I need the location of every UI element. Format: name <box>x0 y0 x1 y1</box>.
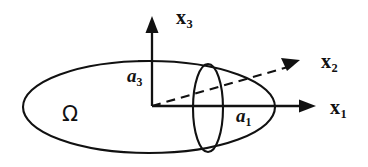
x3-axis-arrowhead <box>146 16 159 33</box>
x1-axis-arrowhead <box>299 100 316 113</box>
x1-axis-label-base: x <box>330 96 340 118</box>
x2-axis-dashed-line <box>152 67 288 106</box>
x2-axis-label-base: x <box>321 50 331 72</box>
x1-axis-label-subscript: 1 <box>340 107 346 121</box>
a3-semiaxis-label-subscript: 3 <box>137 76 143 89</box>
a3-semiaxis-label-base: a <box>127 65 137 86</box>
a1-semiaxis-label-subscript: 1 <box>246 116 252 129</box>
a1-semiaxis-label-base: a <box>236 105 246 126</box>
x1-axis-label: x1 <box>330 97 347 117</box>
a1-semiaxis-label: a1 <box>236 106 251 125</box>
x3-axis-label: x3 <box>176 7 193 27</box>
domain-omega-label: Ω <box>62 104 78 125</box>
x3-axis-label-subscript: 3 <box>186 17 192 31</box>
inner-ellipse-cross-section <box>193 64 223 152</box>
figure-canvas: x3 x2 x1 a3 a1 Ω <box>0 0 368 167</box>
a3-semiaxis-label: a3 <box>127 66 142 85</box>
x3-axis-label-base: x <box>176 6 186 28</box>
x2-axis-label: x2 <box>321 51 338 71</box>
x2-axis-label-subscript: 2 <box>331 61 337 75</box>
